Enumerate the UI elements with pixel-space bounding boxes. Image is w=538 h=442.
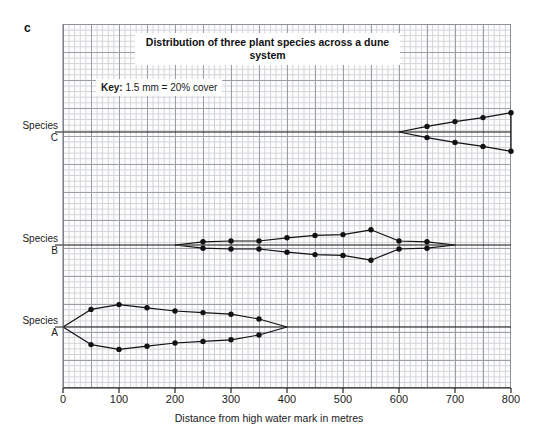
data-point bbox=[340, 253, 345, 258]
data-point bbox=[396, 246, 401, 251]
data-point bbox=[396, 238, 401, 243]
species-label-a-letter: A bbox=[2, 327, 58, 339]
data-point bbox=[340, 232, 345, 237]
species-label-c-letter: C bbox=[2, 132, 58, 144]
data-point bbox=[228, 246, 233, 251]
x-tick-200: 200 bbox=[166, 393, 184, 405]
data-point bbox=[228, 312, 233, 317]
data-point bbox=[256, 238, 261, 243]
data-point bbox=[452, 119, 457, 124]
data-point bbox=[508, 149, 513, 154]
species-label-b-name: Species bbox=[2, 233, 58, 245]
data-point bbox=[312, 233, 317, 238]
data-point bbox=[172, 308, 177, 313]
data-point bbox=[284, 235, 289, 240]
data-point bbox=[256, 316, 261, 321]
species-label-a-name: Species bbox=[2, 315, 58, 327]
x-tick-0: 0 bbox=[60, 393, 66, 405]
data-point bbox=[200, 339, 205, 344]
kite-diagram-figure: c Distribution of three plant species ac… bbox=[0, 0, 538, 442]
kite-species-c bbox=[55, 110, 514, 154]
data-point bbox=[256, 332, 261, 337]
species-label-c: Species C bbox=[2, 120, 58, 143]
species-label-b-letter: B bbox=[2, 245, 58, 257]
x-tick-700: 700 bbox=[446, 393, 464, 405]
data-point bbox=[424, 246, 429, 251]
data-point bbox=[284, 250, 289, 255]
data-point bbox=[368, 258, 373, 263]
key-box: Key: 1.5 mm = 20% cover bbox=[96, 79, 222, 96]
kite-species-b bbox=[55, 227, 511, 263]
data-point bbox=[256, 246, 261, 251]
data-point bbox=[452, 140, 457, 145]
data-point bbox=[312, 252, 317, 257]
x-tick-300: 300 bbox=[222, 393, 240, 405]
x-tick-800: 800 bbox=[502, 393, 520, 405]
data-point bbox=[144, 305, 149, 310]
data-point bbox=[144, 344, 149, 349]
data-point bbox=[116, 302, 121, 307]
data-point bbox=[228, 337, 233, 342]
x-tick-100: 100 bbox=[110, 393, 128, 405]
data-point bbox=[424, 124, 429, 129]
data-point bbox=[480, 115, 485, 120]
data-point bbox=[88, 342, 93, 347]
data-point bbox=[508, 110, 513, 115]
data-point bbox=[200, 310, 205, 315]
x-axis-title: Distance from high water mark in metres bbox=[0, 412, 538, 424]
chart-title: Distribution of three plant species acro… bbox=[135, 33, 400, 65]
key-label: Key: bbox=[101, 82, 123, 93]
kite-overlay bbox=[0, 0, 538, 442]
x-tick-500: 500 bbox=[334, 393, 352, 405]
x-tick-600: 600 bbox=[390, 393, 408, 405]
data-point bbox=[424, 135, 429, 140]
data-point bbox=[172, 340, 177, 345]
data-point bbox=[424, 239, 429, 244]
x-tick-400: 400 bbox=[278, 393, 296, 405]
data-point bbox=[200, 239, 205, 244]
data-point bbox=[368, 227, 373, 232]
data-point bbox=[480, 144, 485, 149]
data-point bbox=[228, 238, 233, 243]
species-label-b: Species B bbox=[2, 233, 58, 256]
species-label-a: Species A bbox=[2, 315, 58, 338]
kite-species-a bbox=[55, 302, 511, 352]
data-point bbox=[88, 307, 93, 312]
species-label-c-name: Species bbox=[2, 120, 58, 132]
key-value: 1.5 mm = 20% cover bbox=[125, 82, 217, 93]
data-point bbox=[116, 347, 121, 352]
data-point bbox=[200, 246, 205, 251]
